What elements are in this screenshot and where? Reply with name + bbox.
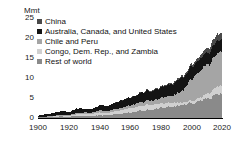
legend-label: Rest of world: [45, 57, 92, 66]
legend-label: Australia, Canada, and United States: [45, 27, 177, 36]
x-axis-line: [38, 118, 223, 119]
legend-swatch-icon: [37, 19, 42, 24]
legend-item-chile-peru: Chile and Peru: [37, 37, 177, 46]
legend-item-china: China: [37, 17, 177, 26]
legend-swatch-icon: [37, 39, 42, 44]
legend-item-australia-canada-united-states: Australia, Canada, and United States: [37, 27, 177, 36]
x-axis-tick-2020: 2020: [205, 124, 237, 132]
legend-label: Congo, Dem. Rep., and Zambia: [45, 47, 158, 56]
legend-label: Chile and Peru: [45, 37, 98, 46]
y-axis-tick-20: 20: [0, 34, 34, 42]
chart-legend: China Australia, Canada, and United Stat…: [37, 17, 177, 66]
legend-swatch-icon: [37, 29, 42, 34]
x-axis-tick-2000: 2000: [175, 124, 209, 132]
y-axis-tick-0: 0: [0, 114, 34, 122]
x-axis-tick-1900: 1900: [21, 124, 55, 132]
x-axis-tick-1980: 1980: [144, 124, 178, 132]
x-axis-tick-1940: 1940: [83, 124, 117, 132]
legend-swatch-icon: [37, 59, 42, 64]
x-axis-tick-1960: 1960: [113, 124, 147, 132]
legend-item-rest-of-world: Rest of world: [37, 57, 177, 66]
y-axis-tick-10: 10: [0, 74, 34, 82]
y-axis-tick-25: 25: [0, 14, 34, 22]
legend-item-congo-zambia: Congo, Dem. Rep., and Zambia: [37, 47, 177, 56]
legend-label: China: [45, 17, 66, 26]
legend-swatch-icon: [37, 49, 42, 54]
chart-figure: Mmt 25 20 15 10 5 0 1900 1920 1940 1960 …: [0, 0, 237, 148]
y-axis-tick-5: 5: [0, 94, 34, 102]
x-axis-tick-1920: 1920: [52, 124, 86, 132]
y-axis-tick-15: 15: [0, 54, 34, 62]
